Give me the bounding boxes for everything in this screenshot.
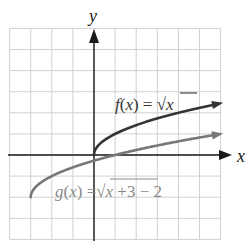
- g-curve-arrow-icon: [211, 131, 223, 139]
- y-axis-label: y: [87, 6, 97, 26]
- function-graph: x y f(x) = √x g(x) =√x +3 − 2: [0, 0, 249, 245]
- f-curve-arrow-icon: [211, 101, 223, 109]
- f-label-text: f(x) = √x: [115, 95, 174, 114]
- x-axis-arrow-icon: [219, 150, 232, 160]
- g-label: g(x) =√x +3 − 2: [55, 179, 162, 201]
- x-axis-label: x: [236, 146, 245, 166]
- g-label-text: g(x) =√x +3 − 2: [55, 182, 162, 201]
- y-axis-arrow-icon: [89, 29, 99, 43]
- axes: [8, 29, 232, 241]
